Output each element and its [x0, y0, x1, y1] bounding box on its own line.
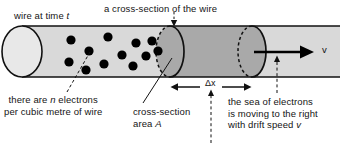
electron-dot	[131, 38, 140, 47]
electron-dot	[103, 32, 112, 41]
label-sea-line2: is moving to the right	[228, 108, 318, 120]
electron-dot	[64, 57, 73, 66]
label-sea-line3-pre: with drift speed	[228, 119, 296, 130]
label-cross-section-area-line2-pre: area	[133, 118, 155, 129]
label-sea-line1: the sea of electrons	[228, 96, 318, 108]
label-sea-line3-symbol: v	[296, 119, 301, 130]
label-sea-line3: with drift speed v	[228, 119, 318, 131]
electron-dot	[141, 51, 150, 60]
electron-dot	[99, 59, 108, 68]
label-n-electrons-line1-post: electrons	[56, 94, 98, 105]
label-cross-section-of-wire: a cross-section of the wire	[104, 3, 217, 15]
label-cross-section-area-symbol: A	[155, 118, 161, 129]
label-n-electrons: there are n electrons per cubic metre of…	[4, 94, 102, 117]
label-n-electrons-line2: per cubic metre of wire	[4, 106, 102, 118]
wire-left-end-cap	[2, 26, 42, 77]
label-cross-section-area-line1: cross-section	[133, 106, 190, 118]
label-wire-at-time-symbol: t	[67, 10, 70, 21]
label-n-electrons-line1-pre: there are	[9, 94, 51, 105]
label-cross-section-area: cross-section area A	[133, 106, 190, 129]
electron-dot	[147, 36, 156, 45]
label-sea-of-electrons: the sea of electrons is moving to the ri…	[228, 96, 318, 131]
electron-drift-diagram: wire at time t a cross-section of the wi…	[0, 0, 340, 143]
leader-delta-x	[208, 90, 214, 144]
label-cross-section-area-line2: area A	[133, 118, 190, 130]
electron-dot	[66, 35, 75, 44]
electron-dot	[153, 46, 162, 55]
label-wire-at-time: wire at time t	[14, 10, 69, 22]
label-wire-at-time-text: wire at time	[14, 10, 67, 21]
electron-dot	[81, 65, 90, 74]
electron-dot	[117, 50, 126, 59]
label-velocity: v	[322, 44, 327, 56]
label-n-electrons-line1: there are n electrons	[4, 94, 102, 106]
electron-dot	[128, 61, 137, 70]
label-delta-x: Δx	[205, 78, 216, 90]
